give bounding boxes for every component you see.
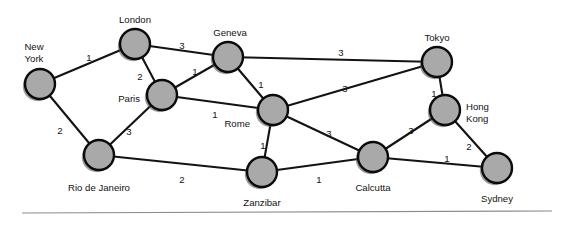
edge-weight-calcutta-sydney: 1 [444,153,449,164]
edge-weight-geneva-tokyo: 3 [338,47,343,58]
edge-weight-hong_kong-calcutta: 3 [408,125,413,136]
node-calcutta[interactable] [358,142,388,172]
edge-weight-hong_kong-sydney: 2 [466,141,471,152]
edge-calcutta-sydney [373,157,497,168]
node-rome[interactable] [258,95,288,125]
node-label-london: London [119,14,151,25]
node-label-hong_kong: HongKong [466,101,489,124]
network-diagram-figure: 123211313313132112 NewYorkLondonGenevaTo… [0,0,574,232]
node-label-geneva: Geneva [213,27,247,38]
edge-weight-new_york-rio_de_janeiro: 2 [57,125,62,136]
edge-weight-rio_de_janeiro-zanzibar: 2 [179,174,184,185]
node-rio_de_janeiro[interactable] [84,140,114,170]
nodes-layer [23,29,512,189]
edge-rome-tokyo [273,62,437,110]
edge-rio_de_janeiro-zanzibar [99,155,262,172]
edge-weight-geneva-rome: 1 [258,79,263,90]
edge-weight-rome-calcutta: 3 [326,128,331,139]
node-label-tokyo: Tokyo [424,32,449,43]
edge-weight-rome-tokyo: 3 [342,83,347,94]
node-zanzibar[interactable] [247,157,277,187]
node-geneva[interactable] [213,42,243,72]
node-label-calcutta: Calcutta [355,182,391,193]
node-tokyo[interactable] [422,47,452,77]
edge-weight-london-paris: 2 [137,71,142,82]
node-label-zanzibar: Zanzibar [243,197,281,208]
node-paris[interactable] [147,80,177,110]
edge-weight-new_york-london: 1 [86,52,91,63]
node-label-rio_de_janeiro: Rio de Janeiro [68,182,130,193]
edge-weight-paris-rome: 1 [212,109,217,120]
edge-weight-rome-zanzibar: 1 [260,140,265,151]
edge-geneva-tokyo [228,57,437,62]
node-label-new_york: NewYork [24,41,43,64]
edge-weight-paris-geneva: 1 [192,66,197,77]
node-london[interactable] [120,29,150,59]
node-label-sydney: Sydney [481,193,513,204]
node-new_york[interactable] [25,69,55,99]
graph-canvas: 123211313313132112 NewYorkLondonGenevaTo… [0,0,574,232]
edge-weight-tokyo-hong_kong: 1 [431,88,436,99]
node-label-paris: Paris [118,93,140,104]
node-hong_kong[interactable] [430,95,460,125]
horizontal-divider [22,211,552,213]
edge-weight-paris-rio_de_janeiro: 3 [126,126,131,137]
divider-layer [22,211,552,213]
edge-rome-calcutta [273,110,373,157]
node-sydney[interactable] [482,153,512,183]
edge-weight-zanzibar-calcutta: 1 [316,174,321,185]
node-label-rome: Rome [224,118,250,129]
edge-weight-london-geneva: 3 [179,40,184,51]
